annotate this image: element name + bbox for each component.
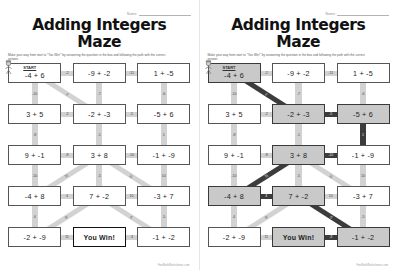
maze-connector-h-r5-c1c2: 11 xyxy=(261,235,273,240)
maze-cell-r4c3[interactable]: -3 + 7 xyxy=(337,186,390,206)
maze-cell-you-win[interactable]: You Win! xyxy=(73,227,126,247)
maze-cell-equation: -9 + -2 xyxy=(287,69,309,78)
connector-value: 5 xyxy=(130,215,134,219)
connector-value: 11 xyxy=(264,235,269,239)
maze-connector-h-r1-c1c2: -2 xyxy=(261,71,273,76)
maze-cell-r3c2[interactable]: 3 + 8 xyxy=(73,145,126,165)
maze-cell-r1c3[interactable]: 1 + -5 xyxy=(137,63,190,83)
mascot-icon xyxy=(2,60,15,75)
connector-value: -9 xyxy=(264,214,269,219)
maze-connector-v-c2-r3r4: -5 xyxy=(96,165,102,186)
connector-value: -10 xyxy=(128,153,134,157)
maze-connector-h-r4-c2c3: 10 xyxy=(126,194,138,199)
maze-cell-r3c2[interactable]: 3 + 8 xyxy=(272,145,325,165)
maze-cell-equation: -3 + 7 xyxy=(353,192,373,201)
connector-value: -8 xyxy=(232,133,236,137)
maze-cell-r1c2[interactable]: -9 + -2 xyxy=(272,63,325,83)
connector-value: -5 xyxy=(97,174,101,178)
maze-cell-r5c1[interactable]: -2 + -9 xyxy=(8,227,61,247)
maze-cell-r2c1[interactable]: 3 + 5 xyxy=(8,104,61,124)
connector-value: -8 xyxy=(33,133,37,137)
maze-cell-r4c1[interactable]: -4 + 8 xyxy=(8,186,61,206)
maze-cell-equation: 7 + -2 xyxy=(89,192,109,201)
maze-connector-h-r3-c1c2: -8 xyxy=(261,153,273,158)
maze-connector-h-r1-c2c3: -11 xyxy=(126,71,138,76)
connector-value: -5 xyxy=(162,215,166,219)
connector-value: 10 xyxy=(360,174,365,178)
connector-value: 2 xyxy=(65,92,69,96)
maze-cell-r4c3[interactable]: -3 + 7 xyxy=(137,186,190,206)
maze-connector-v-c2-r1r2: -7 xyxy=(96,83,102,104)
connector-value: 4 xyxy=(265,194,268,198)
connector-value: 1 xyxy=(162,133,165,137)
maze-cell-r3c1[interactable]: 9 + -1 xyxy=(208,145,261,165)
connector-value: -8 xyxy=(264,153,268,157)
worksheet-sheet: Name: Adding Integers Maze Make your way… xyxy=(0,0,397,270)
connector-value: 1 xyxy=(361,133,364,137)
connector-value: 5 xyxy=(329,215,333,219)
connector-value: -10 xyxy=(231,92,237,96)
maze-connector-h-r5-c1c2: 11 xyxy=(61,235,73,240)
maze-connector-h-r2-c1c2: -2 xyxy=(261,112,273,117)
maze-cell-r5c3[interactable]: -1 + -2 xyxy=(337,227,390,247)
maze-cell-equation: 1 + -5 xyxy=(154,69,174,78)
maze-cell-r1c3[interactable]: 1 + -5 xyxy=(337,63,390,83)
start-label: START xyxy=(23,65,36,70)
maze-connector-h-r4-c1c2: 4 xyxy=(61,194,73,199)
maze-cell-r1c1[interactable]: START-4 + 6 xyxy=(208,63,261,83)
maze-cell-you-win[interactable]: You Win! xyxy=(272,227,325,247)
maze-cell-r5c3[interactable]: -1 + -2 xyxy=(137,227,190,247)
maze-connector-v-c1-r2r3: -8 xyxy=(231,124,237,145)
maze-cell-r3c3[interactable]: -1 + -9 xyxy=(337,145,390,165)
maze-cell-r2c1[interactable]: 3 + 5 xyxy=(208,104,261,124)
maze-cell-equation: 7 + -2 xyxy=(289,192,309,201)
maze-connector-h-r1-c2c3: -11 xyxy=(325,71,337,76)
connector-value: -1 xyxy=(97,133,101,137)
footer-credit: FunMathWorksheets.com xyxy=(158,264,190,267)
connector-value: 11 xyxy=(64,173,69,178)
maze-cell-r3c3[interactable]: -1 + -9 xyxy=(137,145,190,165)
connector-value: -2 xyxy=(264,112,268,116)
maze-cell-r3c1[interactable]: 9 + -1 xyxy=(8,145,61,165)
maze-cell-r4c2[interactable]: 7 + -2 xyxy=(73,186,126,206)
you-win-label: You Win! xyxy=(283,234,314,241)
connector-value: -7 xyxy=(296,92,300,96)
maze-connector-v-c1-r4r5: 4 xyxy=(32,206,38,227)
maze-connector-h-r1-c1c2: -2 xyxy=(61,71,73,76)
maze-cell-r4c1[interactable]: -4 + 8 xyxy=(208,186,261,206)
maze-connector-v-c2-r1r2: -7 xyxy=(295,83,301,104)
maze-cell-r2c3[interactable]: -5 + 6 xyxy=(137,104,190,124)
maze-connector-h-r5-c2c3: -3 xyxy=(126,235,138,240)
you-win-label: You Win! xyxy=(84,234,115,241)
maze-grid-student: -2-11-10-7-62-2-5-8-11-8-10-10-510111141… xyxy=(8,63,190,248)
connector-value: -2 xyxy=(65,112,69,116)
maze-connector-v-c2-r2r3: -1 xyxy=(96,124,102,145)
maze-cell-equation: -2 + -9 xyxy=(24,233,46,242)
maze-connector-v-c2-r2r3: -1 xyxy=(295,124,301,145)
name-line: Name: xyxy=(208,6,390,16)
maze-cell-r2c3[interactable]: -5 + 6 xyxy=(337,104,390,124)
maze-cell-equation: -1 + -9 xyxy=(153,151,175,160)
maze-cell-equation: -1 + -2 xyxy=(352,233,374,242)
maze-cell-r5c1[interactable]: -2 + -9 xyxy=(208,227,261,247)
maze-cell-r1c2[interactable]: -9 + -2 xyxy=(73,63,126,83)
maze-cell-r2c2[interactable]: -2 + -3 xyxy=(272,104,325,124)
maze-cell-equation: -3 + 7 xyxy=(154,192,174,201)
maze-connector-v-c3-r1r2: -6 xyxy=(360,83,366,104)
connector-value: -10 xyxy=(32,92,38,96)
maze-cell-equation: -2 + -9 xyxy=(223,233,245,242)
maze-cell-r4c2[interactable]: 7 + -2 xyxy=(272,186,325,206)
connector-value: 4 xyxy=(232,215,235,219)
maze-connector-v-c3-r4r5: -5 xyxy=(360,206,366,227)
start-label: START xyxy=(223,65,236,70)
name-line: Name: xyxy=(8,6,191,16)
maze-connector-h-r4-c1c2: 4 xyxy=(261,194,273,199)
worksheet-page-answer-key: Name: Adding Integers Maze Make your way… xyxy=(199,0,397,270)
connector-value: 10 xyxy=(161,174,166,178)
connector-value: -10 xyxy=(231,174,237,178)
maze-cell-equation: 9 + -1 xyxy=(25,151,45,160)
connector-value: -2 xyxy=(264,71,268,75)
maze-cell-r2c2[interactable]: -2 + -3 xyxy=(73,104,126,124)
maze-cell-equation: 3 + 8 xyxy=(290,151,307,160)
maze-cell-r1c1[interactable]: START-4 + 6 xyxy=(8,63,61,83)
